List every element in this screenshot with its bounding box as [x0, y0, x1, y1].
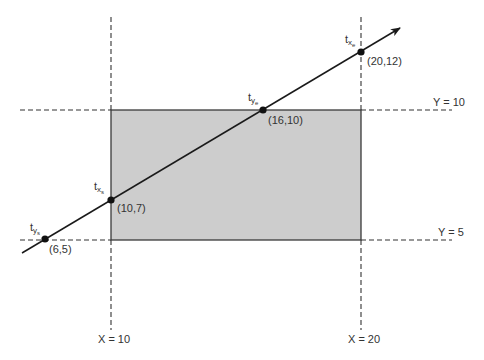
label-t-xs: txs	[94, 180, 104, 195]
point-t-ye-dot	[259, 106, 266, 113]
point-t-xe-dot	[357, 48, 364, 55]
label-t-ys: tys	[30, 221, 40, 236]
coord-label-16-10: (16,10)	[268, 114, 303, 126]
label-t-ye: tye	[248, 91, 259, 106]
coord-label-10-7: (10,7)	[117, 202, 146, 214]
boundary-label-y-min: Y = 5	[438, 226, 464, 238]
clip-window-rect	[111, 110, 361, 240]
label-t-xe: txe	[345, 33, 356, 48]
coord-label-6-5: (6,5)	[49, 243, 72, 255]
line-clipping-diagram: tys txs tye txe (6,5) (10,7) (16,10) (20…	[0, 0, 484, 360]
point-t-xs-dot	[107, 196, 114, 203]
boundary-label-x-max: X = 20	[348, 333, 380, 345]
point-t-ys-dot	[41, 235, 48, 242]
coord-label-20-12: (20,12)	[367, 55, 402, 67]
boundary-label-x-min: X = 10	[98, 333, 130, 345]
boundary-label-y-max: Y = 10	[433, 96, 465, 108]
